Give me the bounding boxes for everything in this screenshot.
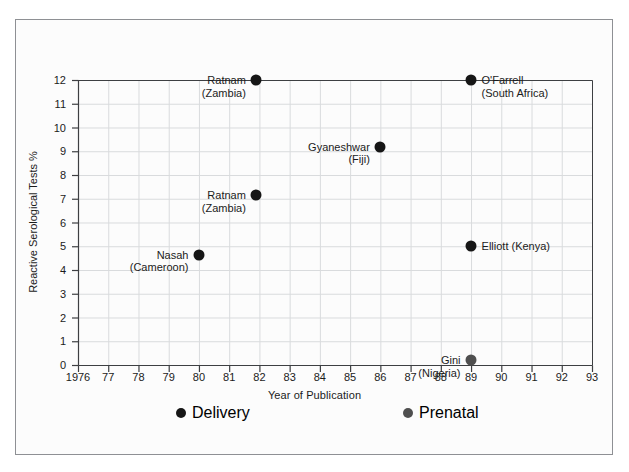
gridlines — [78, 80, 593, 366]
y-axis-title-container: Reactive Serological Tests % — [0, 0, 30, 472]
y-tick-label: 1 — [40, 335, 66, 347]
plot-canvas — [0, 0, 629, 472]
x-tick-label: 83 — [284, 371, 296, 383]
data-point-label-line: Elliott (Kenya) — [482, 240, 550, 253]
y-tick-label: 9 — [40, 145, 66, 157]
data-point-label-line: Gini — [418, 354, 460, 367]
data-point-label-line: Ratnam — [202, 74, 246, 87]
legend-label: Delivery — [192, 404, 250, 422]
data-point-marker — [251, 75, 262, 86]
x-tick-label: 91 — [525, 371, 537, 383]
legend-label: Prenatal — [419, 404, 479, 422]
y-tick-label: 4 — [40, 264, 66, 276]
x-tick-label: 1976 — [66, 371, 90, 383]
x-tick-label: 92 — [556, 371, 568, 383]
data-point-marker — [251, 190, 262, 201]
data-point-label-line: O'Farrell — [482, 74, 549, 87]
x-tick-label: 81 — [223, 371, 235, 383]
x-tick-label: 86 — [374, 371, 386, 383]
legend-marker — [403, 408, 413, 418]
data-point-marker — [193, 249, 204, 260]
x-tick-label: 90 — [495, 371, 507, 383]
y-axis-title: Reactive Serological Tests % — [27, 92, 39, 352]
data-point-marker — [466, 241, 477, 252]
y-tick-label: 5 — [40, 240, 66, 252]
x-tick-label: 80 — [193, 371, 205, 383]
tick-marks — [72, 81, 593, 373]
data-point-label-line: Ratnam — [202, 189, 246, 202]
data-point-label: Elliott (Kenya) — [482, 240, 550, 253]
x-tick-label: 82 — [253, 371, 265, 383]
data-point-label-line: (South Africa) — [482, 86, 549, 99]
data-point-label: Gyaneshwar(Fiji) — [308, 140, 370, 165]
y-tick-label: 11 — [40, 98, 66, 110]
data-point-label: Gini(Nigeria) — [418, 354, 460, 379]
data-point-marker — [466, 75, 477, 86]
data-point-label: O'Farrell(South Africa) — [482, 74, 549, 99]
data-point-marker — [466, 355, 477, 366]
y-tick-label: 7 — [40, 193, 66, 205]
data-point-label: Ratnam(Zambia) — [202, 74, 246, 99]
data-point-label-line: (Fiji) — [308, 153, 370, 166]
y-tick-label: 8 — [40, 169, 66, 181]
y-tick-label: 12 — [40, 74, 66, 86]
x-tick-label: 85 — [344, 371, 356, 383]
data-point-label: Nasah(Cameroon) — [130, 248, 189, 273]
x-tick-label: 93 — [586, 371, 598, 383]
x-tick-label: 78 — [132, 371, 144, 383]
data-point-label: Ratnam(Zambia) — [202, 189, 246, 214]
data-point-label-line: (Zambia) — [202, 86, 246, 99]
x-tick-label: 89 — [465, 371, 477, 383]
x-tick-label: 84 — [314, 371, 326, 383]
y-tick-label: 0 — [40, 359, 66, 371]
figure-root: Reactive Serological Tests % Year of Pub… — [0, 0, 629, 472]
x-axis-title: Year of Publication — [0, 389, 629, 401]
data-point-marker — [375, 141, 386, 152]
y-tick-label: 6 — [40, 217, 66, 229]
y-tick-label: 10 — [40, 122, 66, 134]
data-point-label-line: (Nigeria) — [418, 366, 460, 379]
data-point-label-line: Gyaneshwar — [308, 140, 370, 153]
x-tick-label: 79 — [163, 371, 175, 383]
data-point-label-line: (Zambia) — [202, 201, 246, 214]
x-tick-label: 87 — [404, 371, 416, 383]
y-tick-label: 2 — [40, 312, 66, 324]
data-point-label-line: Nasah — [130, 248, 189, 261]
legend-marker — [176, 408, 186, 418]
x-tick-label: 77 — [102, 371, 114, 383]
data-point-label-line: (Cameroon) — [130, 261, 189, 274]
y-tick-label: 3 — [40, 288, 66, 300]
